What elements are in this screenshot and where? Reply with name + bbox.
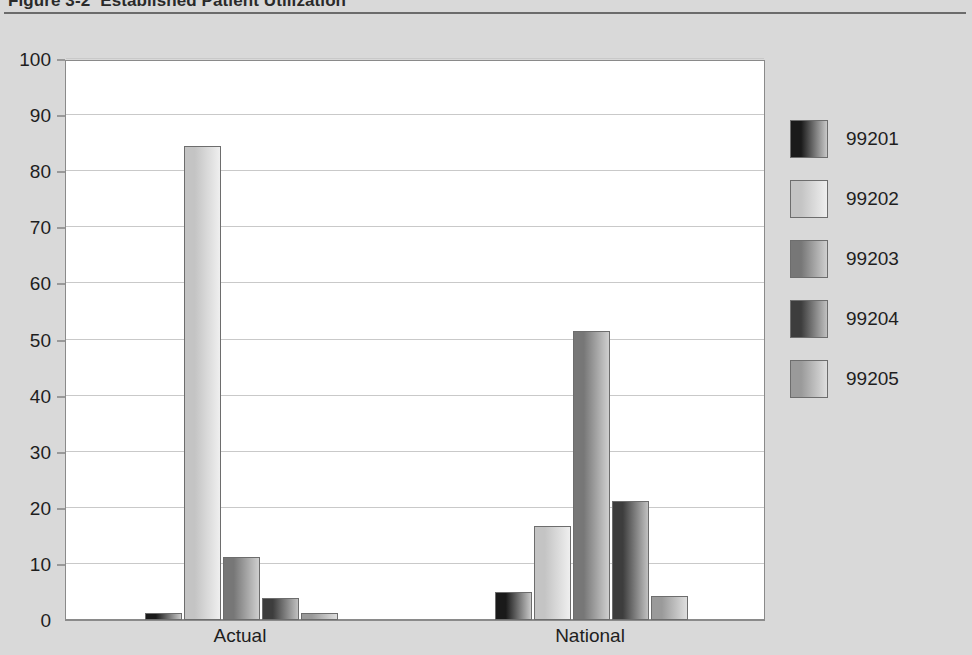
legend-item-99203[interactable]: 99203 [790, 229, 950, 289]
legend-label-99201: 99201 [846, 128, 899, 150]
y-tick-label: 100 [19, 49, 51, 71]
y-tick-mark [57, 340, 65, 341]
legend-swatch-99204 [790, 300, 828, 338]
y-axis: 0102030405060708090100 [4, 60, 65, 621]
y-tick-mark [57, 60, 65, 61]
y-tick-label: 50 [30, 330, 51, 352]
x-tick-label-national: National [555, 625, 625, 647]
y-tick-mark [57, 396, 65, 397]
chart-legend: 9920199202992039920499205 [790, 109, 950, 409]
y-tick-label: 80 [30, 161, 51, 183]
legend-item-99202[interactable]: 99202 [790, 169, 950, 229]
y-tick-mark [57, 228, 65, 229]
bar-actual-99201 [145, 613, 182, 620]
x-tick-label-actual: Actual [214, 625, 267, 647]
y-tick-label: 0 [40, 610, 51, 632]
y-tick-label: 60 [30, 273, 51, 295]
bar-national-99204 [612, 501, 649, 620]
bar-actual-99204 [262, 598, 299, 620]
legend-item-99205[interactable]: 99205 [790, 349, 950, 409]
bar-actual-99203 [223, 557, 260, 620]
bar-national-99202 [534, 526, 571, 620]
bar-national-99205 [651, 596, 688, 620]
y-tick-label: 70 [30, 217, 51, 239]
y-tick-mark [57, 284, 65, 285]
y-tick-mark [57, 452, 65, 453]
x-axis: ActualNational [65, 623, 765, 655]
gridline [66, 58, 764, 59]
chart-frame: 0102030405060708090100 ActualNational 99… [4, 12, 966, 651]
legend-swatch-99202 [790, 180, 828, 218]
legend-label-99203: 99203 [846, 248, 899, 270]
bar-national-99201 [495, 592, 532, 620]
figure-number: Figure 3-2 [8, 0, 90, 10]
y-tick-label: 10 [30, 554, 51, 576]
legend-label-99204: 99204 [846, 308, 899, 330]
y-tick-label: 40 [30, 386, 51, 408]
y-tick-label: 20 [30, 498, 51, 520]
y-tick-mark [57, 116, 65, 117]
y-tick-mark [57, 172, 65, 173]
bar-national-99203 [573, 331, 610, 620]
y-tick-mark [57, 508, 65, 509]
y-tick-label: 30 [30, 442, 51, 464]
figure-caption-text: Established Patient Utilization [100, 0, 346, 10]
legend-item-99204[interactable]: 99204 [790, 289, 950, 349]
bars-layer [66, 61, 764, 620]
legend-swatch-99205 [790, 360, 828, 398]
bar-actual-99202 [184, 146, 221, 620]
bar-actual-99205 [301, 613, 338, 620]
legend-swatch-99203 [790, 240, 828, 278]
plot-area [65, 60, 765, 621]
legend-item-99201[interactable]: 99201 [790, 109, 950, 169]
legend-label-99202: 99202 [846, 188, 899, 210]
y-tick-label: 90 [30, 105, 51, 127]
y-tick-mark [57, 564, 65, 565]
legend-label-99205: 99205 [846, 368, 899, 390]
legend-swatch-99201 [790, 120, 828, 158]
